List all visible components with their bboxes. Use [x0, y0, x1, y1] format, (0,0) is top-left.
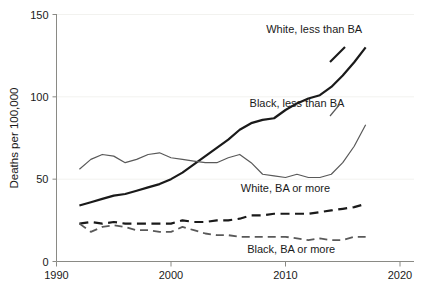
series-labels-group: White, less than BABlack, less than BAWh…: [241, 23, 363, 256]
y-axis-title: Deaths per 100,000: [8, 87, 20, 188]
series-label-1: Black, less than BA: [250, 97, 345, 109]
gridlines: [57, 15, 415, 180]
x-tick-label: 1990: [44, 269, 68, 281]
leader-line-0: [330, 47, 345, 62]
series-label-2: White, BA or more: [241, 182, 330, 194]
x-tick-label: 2000: [159, 269, 183, 281]
y-tick-label: 0: [42, 256, 48, 268]
series-label-3: Black, BA or more: [247, 243, 335, 255]
series-line-3: [79, 224, 365, 240]
line-chart: 050100150 1990200020102020 Deaths per 10…: [0, 0, 422, 301]
chart-container: 050100150 1990200020102020 Deaths per 10…: [0, 0, 422, 301]
y-tick-label: 100: [30, 91, 48, 103]
x-tick-label: 2010: [273, 269, 297, 281]
y-axis: 050100150: [30, 9, 56, 268]
x-tick-label: 2020: [388, 269, 412, 281]
y-tick-label: 50: [36, 173, 48, 185]
y-tick-label: 150: [30, 9, 48, 21]
series-label-0: White, less than BA: [266, 23, 363, 35]
x-axis: 1990200020102020: [44, 262, 414, 281]
series-line-1: [79, 125, 365, 178]
series-line-2: [79, 204, 365, 224]
series-group: [79, 47, 365, 240]
